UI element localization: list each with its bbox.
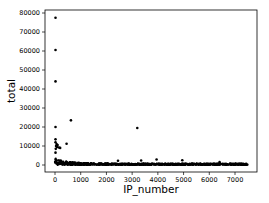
data-point [133,163,135,165]
data-point [141,164,143,166]
data-point [57,162,59,164]
data-point [182,164,184,166]
data-point [196,162,198,164]
chart-canvas: 01000200030004000500060007000 0100002000… [0,0,269,203]
y-tick-label: 20000 [19,123,40,131]
y-axis-label: total [5,79,17,103]
data-point [137,163,139,165]
data-point [236,163,238,165]
x-tick-label: 7000 [227,176,244,184]
data-point [190,163,192,165]
data-point [54,138,57,141]
data-point [83,162,85,164]
data-point [116,163,118,165]
data-point [145,163,147,165]
data-point [174,163,176,165]
data-point [136,127,139,130]
data-point [94,163,96,165]
y-axis-ticks: 0100002000030000400005000060000700008000… [19,9,45,169]
data-point [54,16,57,19]
x-tick-label: 6000 [201,176,218,184]
data-point [77,162,79,164]
data-point [54,126,57,129]
data-point [68,161,70,163]
x-tick-label: 1000 [72,176,89,184]
data-point [241,163,243,165]
data-point [181,159,184,162]
data-point [54,148,57,151]
data-point [90,163,92,165]
data-point [239,163,241,165]
data-point [123,163,125,165]
data-point [167,164,169,166]
x-axis-label: IP_number [123,183,179,196]
y-tick-label: 60000 [19,47,40,55]
data-point [117,160,120,163]
data-point [165,163,167,165]
data-point [140,159,143,162]
data-point [159,163,161,165]
axes-frame [45,10,257,172]
y-tick-label: 50000 [19,66,40,74]
data-point [79,163,81,165]
data-point [110,164,112,166]
data-point [72,161,74,163]
data-point [170,164,172,166]
data-point [70,119,73,122]
data-point [201,163,203,165]
data-point [54,49,57,52]
y-tick-label: 0 [36,161,40,169]
data-point [103,163,105,165]
data-point [105,163,107,165]
data-point [86,164,88,166]
data-point [155,158,158,161]
data-point [212,163,214,165]
y-tick-label: 10000 [19,142,40,150]
data-point [120,163,122,165]
data-point [150,163,152,165]
data-point [208,163,210,165]
data-point [100,163,102,165]
data-point [218,161,221,164]
data-point [179,164,181,166]
data-points [54,16,249,166]
y-tick-label: 70000 [19,28,40,36]
data-point [97,163,99,165]
data-point [55,160,57,162]
data-point [188,164,190,166]
data-point [71,163,73,165]
data-point [61,163,63,165]
scatter-chart: 01000200030004000500060007000 0100002000… [0,0,269,203]
data-point [54,151,57,154]
y-tick-label: 30000 [19,104,40,112]
data-point [157,163,159,165]
data-point [54,80,57,83]
data-point [112,163,114,165]
x-tick-label: 2000 [98,176,115,184]
x-tick-label: 0 [53,176,57,184]
data-point [223,163,225,165]
data-point [65,161,67,163]
data-point [225,164,227,166]
data-point [215,164,217,166]
y-tick-label: 40000 [19,85,40,93]
data-point [127,163,129,165]
y-tick-label: 80000 [19,9,40,17]
data-point [64,164,66,166]
data-point [65,142,68,145]
data-point [193,163,195,165]
data-point [59,147,62,150]
data-point [244,164,246,166]
data-point [233,164,235,166]
data-point [62,161,64,163]
